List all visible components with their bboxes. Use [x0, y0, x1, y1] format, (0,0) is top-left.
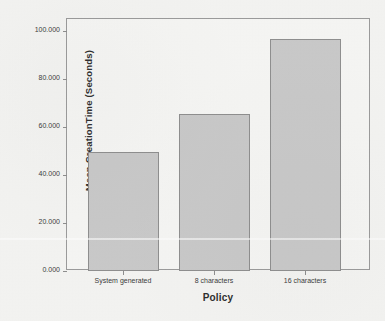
y-tick-label-80: 80.000: [39, 74, 60, 81]
y-tick-label-20: 20.000: [39, 218, 60, 225]
x-tick-mark-16-characters: [305, 271, 306, 275]
x-axis-title: Policy: [66, 292, 370, 303]
y-tick-mark-40: [63, 175, 67, 176]
y-tick-label-40: 40.000: [39, 170, 60, 177]
bar-chart-figure: Mean CreationTime (Seconds) 100.000 80.0…: [0, 0, 385, 321]
y-tick-label-100: 100.000: [35, 26, 60, 33]
y-tick-mark-0: [63, 271, 67, 272]
bar-16-characters[interactable]: [270, 39, 341, 271]
y-tick-mark-60: [63, 127, 67, 128]
x-tick-mark-8-characters: [214, 271, 215, 275]
y-tick-mark-80: [63, 79, 67, 80]
x-tick-label-16-characters: 16 characters: [250, 277, 360, 284]
plot-area: Mean CreationTime (Seconds) 100.000 80.0…: [66, 18, 370, 270]
bar-8-characters[interactable]: [179, 114, 250, 271]
x-tick-mark-system-generated: [123, 271, 124, 275]
y-tick-mark-100: [63, 31, 67, 32]
bar-system-generated[interactable]: [88, 152, 159, 271]
y-tick-mark-20: [63, 223, 67, 224]
y-tick-label-60: 60.000: [39, 122, 60, 129]
y-tick-label-0: 0.000: [42, 266, 60, 273]
